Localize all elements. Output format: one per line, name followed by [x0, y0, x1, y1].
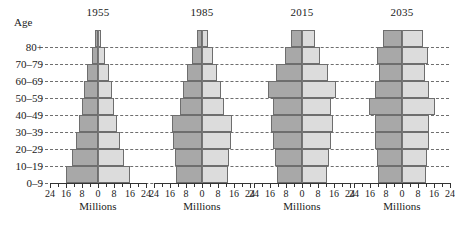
bar-male — [277, 166, 302, 183]
x-axis-tick-label: 16 — [329, 188, 339, 199]
bar-male — [285, 47, 302, 64]
center-axis-line — [98, 30, 99, 183]
x-axis-tick-label: 0 — [300, 188, 305, 199]
bar-female — [402, 166, 426, 183]
bar-female — [302, 132, 331, 149]
plot-area — [254, 30, 350, 183]
panel-title: 2015 — [252, 6, 352, 18]
bar-female — [302, 166, 327, 183]
bar-female — [202, 149, 229, 166]
bar-female — [98, 149, 124, 166]
bar-female — [302, 149, 329, 166]
bar-male — [377, 149, 402, 166]
bar-male — [180, 98, 202, 115]
pyramid-panel: 201524168081624Millions — [252, 0, 352, 225]
bar-male — [273, 98, 302, 115]
x-axis-tick-label: 16 — [429, 188, 439, 199]
bar-female — [402, 81, 429, 98]
bar-female — [302, 98, 331, 115]
x-axis-tick — [210, 183, 211, 187]
bar-male — [79, 115, 98, 132]
x-axis-tick — [122, 183, 123, 187]
x-axis-tick-label: 16 — [365, 188, 375, 199]
bar-female — [202, 98, 224, 115]
bar-female — [202, 166, 228, 183]
bar-male — [271, 115, 302, 132]
x-axis-tick-label: 8 — [112, 188, 117, 199]
x-axis-tick-label: 16 — [229, 188, 239, 199]
x-axis-tick-label: 0 — [96, 188, 101, 199]
x-axis-tick — [362, 183, 363, 187]
bar-male — [375, 115, 402, 132]
x-axis-tick — [194, 183, 195, 187]
bar-male — [84, 81, 98, 98]
age-tick-label: 10–19 — [16, 161, 44, 172]
bar-female — [402, 149, 427, 166]
bar-male — [375, 81, 402, 98]
center-axis-line — [402, 30, 403, 183]
bar-male — [173, 132, 202, 149]
bar-female — [402, 30, 423, 47]
bar-female — [98, 98, 114, 115]
x-axis-tick-label: 24 — [149, 188, 159, 199]
x-axis-tick-label: 8 — [184, 188, 189, 199]
x-axis-title: Millions — [352, 200, 452, 212]
x-axis-tick — [242, 183, 243, 187]
bar-female — [98, 166, 130, 183]
x-axis-tick — [90, 183, 91, 187]
x-axis-tick — [326, 183, 327, 187]
x-axis-tick-label: 16 — [61, 188, 71, 199]
plot-area — [354, 30, 450, 183]
bar-male — [291, 30, 302, 47]
age-tick-label: 60–69 — [16, 76, 44, 87]
bar-female — [98, 81, 112, 98]
bar-female — [98, 47, 105, 64]
bar-male — [276, 64, 302, 81]
bar-female — [98, 132, 120, 149]
bar-male — [273, 132, 302, 149]
bar-male — [383, 30, 402, 47]
pyramid-panel: 195524168081624Millions — [48, 0, 148, 225]
bar-female — [302, 47, 320, 64]
panel-title: 1955 — [48, 6, 148, 18]
x-axis-tick — [310, 183, 311, 187]
x-axis-tick — [262, 183, 263, 187]
bar-female — [402, 132, 429, 149]
age-tick-label: 70–79 — [16, 59, 44, 70]
age-tick-label: 50–59 — [16, 93, 44, 104]
x-axis-tick — [294, 183, 295, 187]
bar-male — [192, 47, 202, 64]
x-axis-tick-label: 8 — [416, 188, 421, 199]
bar-male — [378, 166, 402, 183]
x-axis-tick — [162, 183, 163, 187]
bar-male — [175, 149, 202, 166]
bar-female — [302, 64, 328, 81]
bar-female — [98, 64, 109, 81]
x-axis-tick-label: 24 — [349, 188, 359, 199]
x-axis-tick — [106, 183, 107, 187]
x-axis-title: Millions — [48, 200, 148, 212]
x-axis-tick-label: 16 — [125, 188, 135, 199]
x-axis-tick-label: 8 — [216, 188, 221, 199]
panel-title: 1985 — [152, 6, 252, 18]
plot-area — [50, 30, 146, 183]
bar-male — [183, 81, 202, 98]
x-axis-tick — [410, 183, 411, 187]
bar-female — [402, 64, 425, 81]
center-axis-line — [302, 30, 303, 183]
bar-male — [176, 166, 202, 183]
bar-male — [76, 132, 98, 149]
pyramid-panel: 198524168081624Millions — [152, 0, 252, 225]
x-axis-tick-label: 8 — [384, 188, 389, 199]
pyramid-panel: 203524168081624Millions — [352, 0, 452, 225]
x-axis-tick — [342, 183, 343, 187]
bar-female — [98, 115, 117, 132]
x-axis-title: Millions — [252, 200, 352, 212]
bar-male — [82, 98, 98, 115]
bar-female — [402, 115, 429, 132]
age-tick-label: 20–29 — [16, 144, 44, 155]
bar-female — [202, 132, 231, 149]
bar-male — [66, 166, 98, 183]
bar-male — [72, 149, 98, 166]
